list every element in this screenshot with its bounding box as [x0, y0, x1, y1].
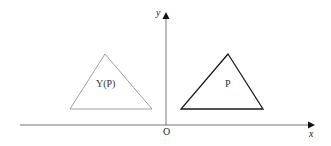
- y-axis-label: y: [156, 8, 160, 18]
- origin-label: O: [163, 127, 170, 137]
- original-triangle-label: P: [225, 79, 231, 89]
- y-axis-arrow-icon: [163, 12, 170, 19]
- reflected-triangle-label: Y(P): [96, 79, 115, 89]
- diagram-canvas: [0, 0, 331, 146]
- x-axis-label: x: [309, 129, 313, 139]
- original-triangle-p: [181, 54, 263, 109]
